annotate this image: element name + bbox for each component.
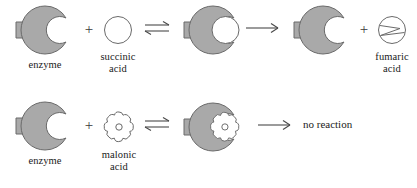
right-arrow-icon bbox=[244, 19, 282, 37]
enzyme-label-row1: enzyme bbox=[28, 59, 61, 71]
enzyme-inhibitor-complex-icon bbox=[176, 100, 244, 154]
equilibrium-arrow-icon bbox=[142, 17, 172, 39]
enzyme-label-row2: enzyme bbox=[28, 155, 61, 167]
fumaric-acid-label: fumaric acid bbox=[375, 51, 408, 74]
enzyme-shape-icon bbox=[8, 100, 82, 152]
reaction-arrow-row2 bbox=[256, 116, 294, 134]
enzyme-released-node bbox=[286, 4, 360, 56]
malonic-acid-node: malonic acid bbox=[100, 108, 138, 172]
enzyme-node-row1: enzyme bbox=[8, 4, 82, 71]
malonic-acid-icon bbox=[100, 108, 138, 146]
enzyme-inhibitor-complex-node bbox=[176, 100, 244, 154]
plus-sign-row2: + bbox=[82, 118, 96, 132]
reaction-row-succinic: enzyme + succinic acid bbox=[0, 0, 417, 94]
reaction-arrow-row1 bbox=[244, 19, 282, 37]
plus-sign-row1-b: + bbox=[357, 22, 371, 36]
right-arrow-icon bbox=[256, 116, 294, 134]
equilibrium-arrow-row2 bbox=[142, 113, 172, 135]
malonic-acid-label: malonic acid bbox=[102, 149, 137, 172]
reaction-row-malonic: enzyme + malonic acid bbox=[0, 94, 417, 188]
reaction-diagram: enzyme + succinic acid bbox=[0, 0, 417, 188]
equilibrium-arrow-row1 bbox=[142, 17, 172, 39]
enzyme-shape-icon bbox=[286, 4, 360, 56]
enzyme-substrate-complex-icon bbox=[176, 4, 240, 56]
no-reaction-label: no reaction bbox=[303, 118, 352, 131]
plus-sign-row1-a: + bbox=[82, 22, 96, 36]
equilibrium-arrow-icon bbox=[142, 113, 172, 135]
circle-substrate-icon bbox=[100, 12, 136, 48]
fumaric-acid-icon bbox=[374, 12, 410, 48]
succinic-acid-node: succinic acid bbox=[100, 12, 136, 74]
fumaric-acid-node: fumaric acid bbox=[374, 12, 410, 74]
enzyme-shape-icon bbox=[8, 4, 82, 56]
enzyme-node-row2: enzyme bbox=[8, 100, 82, 167]
succinic-acid-label: succinic acid bbox=[100, 51, 135, 74]
enzyme-substrate-complex-node bbox=[176, 4, 240, 56]
